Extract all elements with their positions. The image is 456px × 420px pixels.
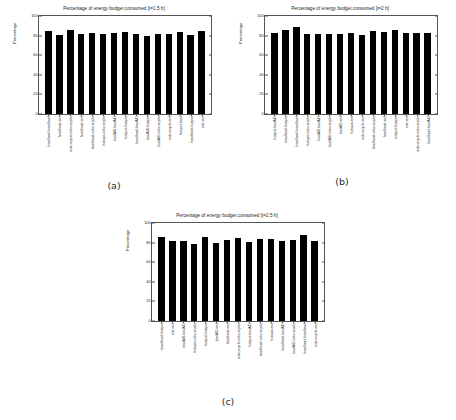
panel-b-y-tick-mark — [265, 74, 268, 75]
bar — [392, 30, 398, 114]
subcaption-a: (a) — [0, 180, 228, 191]
x-label-item: hotspot-reducecycle — [301, 116, 312, 172]
x-label-item: hotspot-head — [175, 116, 186, 172]
x-tick-label: reducecycle-reducecycle — [417, 116, 421, 152]
x-tick-label: headhead-leadAID — [282, 323, 286, 351]
bar-item — [346, 16, 357, 114]
x-label-item: headhead-end — [379, 116, 390, 172]
x-tick-label: leadAID-leadAID — [114, 116, 118, 141]
bar — [381, 32, 387, 114]
bar-item — [309, 223, 320, 321]
bar-item — [269, 16, 280, 114]
bar — [100, 34, 106, 114]
x-tick-label: headhead-headhead — [48, 116, 52, 146]
x-tick-label: headhead-headhead — [304, 323, 308, 353]
x-label-item: leadAID-leadAID — [177, 323, 188, 379]
x-label-item: end-end — [197, 116, 208, 172]
bar-item — [280, 16, 291, 114]
bar — [348, 33, 354, 114]
panel-a-y-tick-mark — [39, 94, 42, 95]
bar — [191, 244, 197, 321]
bar-item — [131, 16, 142, 114]
panel-b-y-tick-label: 40 — [259, 73, 263, 77]
bar — [155, 34, 161, 114]
bar — [133, 34, 139, 114]
x-label-item: headhead-hotspot — [186, 116, 197, 172]
x-tick-label: leadAID-reducecycle — [158, 116, 162, 146]
bar-item — [54, 16, 65, 114]
bar — [224, 240, 230, 321]
bar — [213, 243, 219, 321]
panel-a-y-tick-label: 80 — [33, 34, 37, 38]
x-tick-label: headhead-hotspot — [191, 116, 195, 143]
x-tick-label: hotspot-end — [351, 116, 355, 133]
x-label-item: hotspot-end — [345, 116, 356, 172]
figure-three-panel-bar-charts: Percentage of energy budget consumed [t=… — [0, 0, 456, 420]
bar-item — [43, 16, 54, 114]
x-label-item: hotspot-end — [266, 323, 277, 379]
bar-item — [291, 16, 302, 114]
bar — [45, 31, 51, 114]
bar-item — [302, 16, 313, 114]
bar-item — [196, 16, 207, 114]
panel-c-y-tick-label: 80 — [146, 241, 150, 245]
bar — [282, 30, 288, 114]
panel-c-y-tick-mark — [152, 242, 155, 243]
panel-b-y-tick-mark — [435, 94, 438, 95]
panel-a-y-tick-label: 100 — [31, 14, 37, 18]
panel-a-title: Percentage of energy budget consumed [t=… — [8, 6, 220, 11]
bar-item — [222, 223, 233, 321]
bar — [56, 35, 62, 114]
bar-item — [422, 16, 433, 114]
bar — [246, 242, 252, 321]
bar-item — [163, 16, 174, 114]
x-tick-label: headhead-end — [81, 116, 85, 137]
bar — [235, 238, 241, 321]
panel-a-y-tick-mark — [209, 114, 212, 115]
bar — [359, 35, 365, 114]
panel-c-y-tick-mark — [152, 281, 155, 282]
bar-item — [313, 16, 324, 114]
bar-item — [109, 16, 120, 114]
x-tick-label: hotspot-reducecycle — [307, 116, 311, 146]
x-tick-label: headhead-reducecycle — [373, 116, 377, 149]
bar-item — [357, 16, 368, 114]
x-label-item: headhead-headhead — [299, 323, 310, 379]
x-tick-label: leadAID-reducecycle — [293, 323, 297, 353]
bar — [67, 30, 73, 114]
x-tick-label: hotspot-leadAID — [274, 116, 278, 140]
bar-item — [276, 223, 287, 321]
x-tick-label: end-end — [202, 116, 206, 128]
bar-item — [233, 223, 244, 321]
bar-item — [141, 16, 152, 114]
x-tick-label: headhead-leadAID — [136, 116, 140, 144]
x-label-item: leadAID-end — [334, 116, 345, 172]
bar — [144, 36, 150, 114]
bar — [279, 241, 285, 321]
panel-a-y-tick-mark — [39, 114, 42, 115]
panel-b-y-tick-label: 60 — [259, 53, 263, 57]
panel-c-y-tick-label: 60 — [146, 260, 150, 264]
x-label-item: reducecycle-reducecycle — [64, 116, 75, 172]
panel-b-y-tick-mark — [265, 16, 268, 17]
x-label-item: headhead-headhead — [290, 116, 301, 172]
panel-c: Percentage of energy budget consumed [t=… — [121, 213, 333, 393]
bar-item — [244, 223, 255, 321]
panel-c-y-tick-label: 20 — [146, 299, 150, 303]
bar — [180, 241, 186, 321]
bar — [198, 31, 204, 114]
subcaption-b: (b) — [228, 176, 456, 187]
bar — [315, 34, 321, 114]
bar-item — [152, 16, 163, 114]
x-tick-label: reducecycle-end — [315, 323, 319, 347]
x-label-item: end-end — [166, 323, 177, 379]
bar-item — [378, 16, 389, 114]
bar-item — [411, 16, 422, 114]
bar — [271, 33, 277, 114]
panel-b-y-axis-label: Percentage — [238, 23, 243, 44]
x-label-item: headhead-reducecycle — [86, 116, 97, 172]
x-label-item: headhead-hotspot — [279, 116, 290, 172]
x-label-item: hotspot-reducecycle — [188, 323, 199, 379]
panel-a-y-tick-mark — [209, 94, 212, 95]
bar-item — [167, 223, 178, 321]
